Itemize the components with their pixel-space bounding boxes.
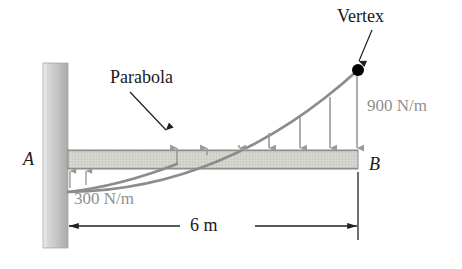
- point-a-label: A: [23, 150, 34, 168]
- beam-member: [68, 150, 358, 169]
- vertex-label: Vertex: [337, 7, 384, 25]
- parabola-leader-line: [130, 92, 166, 130]
- point-b-label: B: [369, 155, 380, 173]
- diagram-canvas: [0, 0, 462, 269]
- parabola-label: Parabola: [110, 68, 173, 86]
- beam-load-diagram: Vertex Parabola 900 N/m 300 N/m A B 6 m: [0, 0, 462, 269]
- uplift-arrow-group: [70, 171, 86, 188]
- vertex-leader-line: [359, 30, 372, 61]
- parabola-load-curve: [68, 70, 358, 192]
- wall-support: [43, 63, 68, 248]
- span-dimension-label: 6 m: [190, 216, 218, 234]
- load-max-label: 900 N/m: [367, 97, 427, 114]
- vertex-marker: [352, 64, 364, 76]
- load-min-label: 300 N/m: [74, 190, 134, 207]
